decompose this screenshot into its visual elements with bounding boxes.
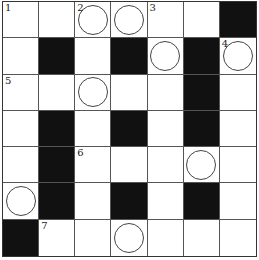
black-square xyxy=(184,38,220,74)
black-square xyxy=(111,183,147,219)
clue-number: 6 xyxy=(77,147,83,158)
clue-number: 2 xyxy=(77,2,83,13)
black-square xyxy=(39,147,75,183)
crossword-cell[interactable] xyxy=(111,2,147,38)
circle-marker-icon xyxy=(114,223,144,253)
clue-number: 5 xyxy=(5,75,11,86)
black-square xyxy=(3,220,39,256)
crossword-cell[interactable] xyxy=(220,75,256,111)
clue-number: 4 xyxy=(222,38,228,49)
crossword-grid: 1234567 xyxy=(2,1,257,257)
crossword-cell[interactable] xyxy=(148,220,184,256)
crossword-cell[interactable] xyxy=(111,75,147,111)
crossword-cell[interactable] xyxy=(75,220,111,256)
crossword-cell[interactable] xyxy=(220,183,256,219)
crossword-cell[interactable] xyxy=(148,183,184,219)
crossword-cell[interactable] xyxy=(148,75,184,111)
clue-number: 7 xyxy=(41,220,47,231)
crossword-cell[interactable] xyxy=(220,220,256,256)
crossword-cell[interactable] xyxy=(39,75,75,111)
black-square xyxy=(220,2,256,38)
black-square xyxy=(39,111,75,147)
black-square xyxy=(184,75,220,111)
crossword-cell[interactable] xyxy=(148,147,184,183)
crossword-cell[interactable] xyxy=(3,183,39,219)
crossword-cell[interactable] xyxy=(184,220,220,256)
circle-marker-icon xyxy=(114,5,144,35)
circle-marker-icon xyxy=(6,186,36,216)
crossword-cell[interactable]: 6 xyxy=(75,147,111,183)
crossword-cell[interactable] xyxy=(75,183,111,219)
crossword-cell[interactable]: 5 xyxy=(3,75,39,111)
crossword-cell[interactable] xyxy=(111,220,147,256)
crossword-cell[interactable] xyxy=(75,111,111,147)
crossword-cell[interactable]: 4 xyxy=(220,38,256,74)
black-square xyxy=(184,183,220,219)
crossword-cell[interactable]: 7 xyxy=(39,220,75,256)
circle-marker-icon xyxy=(78,77,108,107)
crossword-cell[interactable]: 2 xyxy=(75,2,111,38)
crossword-cell[interactable]: 3 xyxy=(148,2,184,38)
crossword-cell[interactable] xyxy=(75,38,111,74)
crossword-cell[interactable] xyxy=(148,111,184,147)
crossword-cell[interactable] xyxy=(3,111,39,147)
crossword-cell[interactable] xyxy=(75,75,111,111)
clue-number: 3 xyxy=(150,2,156,13)
black-square xyxy=(39,38,75,74)
crossword-cell[interactable] xyxy=(184,147,220,183)
crossword-cell[interactable] xyxy=(220,147,256,183)
crossword-cell[interactable] xyxy=(3,147,39,183)
black-square xyxy=(111,111,147,147)
crossword-cell[interactable] xyxy=(220,111,256,147)
circle-marker-icon xyxy=(186,150,216,180)
crossword-cell[interactable] xyxy=(148,38,184,74)
clue-number: 1 xyxy=(5,2,11,13)
crossword-cell[interactable] xyxy=(3,38,39,74)
crossword-cell[interactable] xyxy=(39,2,75,38)
crossword-cell[interactable] xyxy=(184,2,220,38)
crossword-cell[interactable]: 1 xyxy=(3,2,39,38)
circle-marker-icon xyxy=(150,41,180,71)
black-square xyxy=(39,183,75,219)
black-square xyxy=(111,38,147,74)
crossword-cell[interactable] xyxy=(111,147,147,183)
black-square xyxy=(184,111,220,147)
